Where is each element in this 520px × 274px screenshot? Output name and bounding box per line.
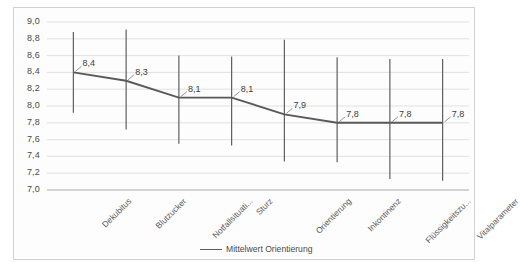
- series-line: [73, 72, 442, 122]
- data-point-label: 8,4: [82, 58, 95, 68]
- label-leader-line: [286, 108, 292, 113]
- data-point-label: 7,9: [293, 100, 306, 110]
- data-point-label: 7,8: [399, 109, 412, 119]
- label-leader-line: [392, 117, 398, 122]
- y-axis-tick-label: 8,4: [16, 66, 40, 76]
- label-leader-line: [234, 92, 240, 97]
- data-point-label: 8,1: [188, 84, 201, 94]
- y-axis-tick-label: 9,0: [16, 16, 40, 26]
- label-leader-line: [75, 66, 81, 71]
- label-leader-line: [181, 92, 187, 97]
- label-leader-line: [445, 117, 451, 122]
- data-point-label: 7,8: [346, 109, 359, 119]
- x-axis-category-label: Vitalparameter: [475, 196, 520, 241]
- legend-line-swatch: [200, 249, 222, 250]
- y-axis-tick-label: 8,6: [16, 50, 40, 60]
- chart-plot-area: [14, 8, 474, 259]
- y-axis-tick-label: 7,6: [16, 134, 40, 144]
- data-point-label: 8,3: [135, 67, 148, 77]
- y-axis-tick-label: 7,2: [16, 167, 40, 177]
- label-leader-line: [339, 117, 345, 122]
- data-point-label: 7,8: [452, 109, 465, 119]
- chart-legend: Mittelwert Orientierung: [200, 244, 312, 254]
- y-axis-tick-label: 8,0: [16, 100, 40, 110]
- y-axis-tick-label: 7,0: [16, 184, 40, 194]
- label-leader-line: [128, 75, 134, 80]
- y-axis-tick-label: 7,8: [16, 117, 40, 127]
- y-axis-tick-label: 8,2: [16, 83, 40, 93]
- y-axis-tick-label: 8,8: [16, 33, 40, 43]
- data-point-label: 8,1: [241, 84, 254, 94]
- legend-label: Mittelwert Orientierung: [226, 244, 312, 254]
- y-axis-tick-label: 7,4: [16, 150, 40, 160]
- chart-container: 9,08,88,68,48,28,07,87,67,47,27,0 Dekubi…: [13, 7, 475, 260]
